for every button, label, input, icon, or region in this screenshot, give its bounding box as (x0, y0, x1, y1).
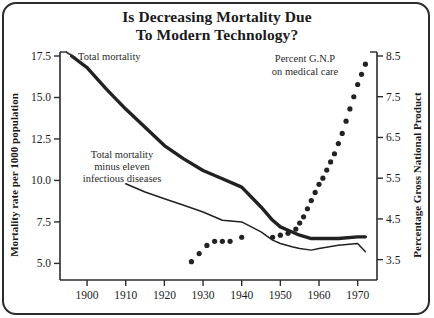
x-axis-ticks: 19001910192019301940195019601970 (76, 280, 370, 301)
left-tick-label: 10.0 (31, 174, 51, 186)
chart-figure: Is Decreasing Mortality Due To Modern Te… (0, 0, 434, 318)
x-tick-label: 1920 (153, 289, 176, 301)
x-tick-label: 1900 (76, 289, 99, 301)
chart-plot-area: 5.07.510.012.515.017.5 3.54.55.56.57.58.… (0, 0, 434, 318)
right-tick-label: 4.5 (386, 213, 401, 225)
annotation-gnp-line-2: on medical care (272, 66, 339, 77)
left-axis-ticks: 5.07.510.012.515.017.5 (31, 50, 67, 269)
right-tick-label: 6.5 (386, 131, 401, 143)
x-tick-label: 1910 (114, 289, 137, 301)
x-tick-label: 1960 (308, 289, 331, 301)
series-total-mortality (72, 56, 366, 239)
left-axis-title: Mortality rate per 1000 population (8, 93, 20, 257)
x-tick-label: 1940 (230, 289, 253, 301)
left-tick-label: 17.5 (31, 50, 51, 62)
annotation-minus-infectious-line-2: minus eleven (94, 161, 150, 172)
annotation-minus-infectious-line-3: infectious diseases (83, 173, 161, 184)
left-tick-label: 5.0 (37, 257, 52, 269)
annotation-total-mortality: Total mortality (78, 51, 141, 62)
right-tick-label: 3.5 (386, 254, 401, 266)
right-tick-label: 5.5 (386, 172, 401, 184)
series-gnp-dots (189, 62, 368, 265)
left-tick-label: 12.5 (31, 133, 51, 145)
right-tick-label: 7.5 (386, 91, 401, 103)
left-tick-label: 15.0 (31, 91, 51, 103)
x-tick-label: 1930 (192, 289, 215, 301)
left-tick-label: 7.5 (37, 216, 52, 228)
right-axis-ticks: 3.54.55.56.57.58.5 (370, 50, 401, 266)
series-total-mortality-minus-infectious (126, 184, 366, 252)
x-tick-label: 1970 (346, 289, 369, 301)
right-axis-title: Percentage Gross National Product (411, 92, 423, 258)
right-tick-label: 8.5 (386, 50, 401, 62)
x-tick-label: 1950 (269, 289, 292, 301)
annotation-minus-infectious-line-1: Total mortality (91, 149, 154, 160)
annotation-gnp-line-1: Percent G.N.P (275, 53, 336, 64)
